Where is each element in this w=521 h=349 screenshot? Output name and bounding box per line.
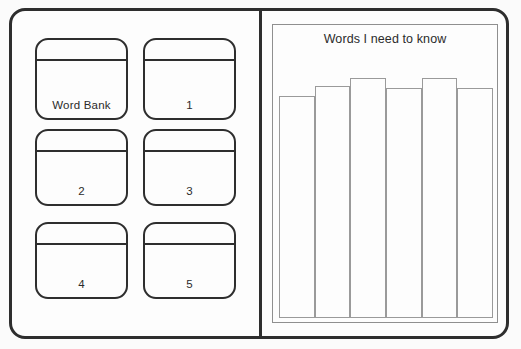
chart-bar xyxy=(350,78,386,318)
chart-bar xyxy=(457,88,493,318)
chart-title: Words I need to know xyxy=(273,33,497,46)
words-chart-panel: Words I need to know xyxy=(262,11,509,338)
word-card-1[interactable]: 1 xyxy=(143,38,236,120)
word-bank-card[interactable]: Word Bank xyxy=(35,38,128,120)
card-label: Word Bank xyxy=(37,100,126,112)
card-label: 1 xyxy=(145,100,234,112)
word-card-5[interactable]: 5 xyxy=(143,222,236,299)
card-label: 2 xyxy=(37,186,126,198)
card-header-rule xyxy=(145,59,234,61)
card-header-rule xyxy=(37,59,126,61)
card-header-rule xyxy=(145,150,234,152)
word-card-2[interactable]: 2 xyxy=(35,129,128,206)
chart-plot-area xyxy=(279,51,493,318)
worksheet-page: Word Bank 1 2 3 4 5 Words I need to know xyxy=(0,0,521,349)
chart-bar xyxy=(279,96,315,318)
card-header-rule xyxy=(37,150,126,152)
chart-bar xyxy=(386,88,422,318)
chart-bar xyxy=(315,86,351,318)
word-bank-grid: Word Bank 1 2 3 4 5 xyxy=(12,11,259,338)
chart-box: Words I need to know xyxy=(272,24,498,323)
word-card-4[interactable]: 4 xyxy=(35,222,128,299)
card-label: 5 xyxy=(145,279,234,291)
card-header-rule xyxy=(37,243,126,245)
card-label: 3 xyxy=(145,186,234,198)
chart-bar xyxy=(422,78,458,318)
word-card-3[interactable]: 3 xyxy=(143,129,236,206)
card-header-rule xyxy=(145,243,234,245)
card-label: 4 xyxy=(37,279,126,291)
